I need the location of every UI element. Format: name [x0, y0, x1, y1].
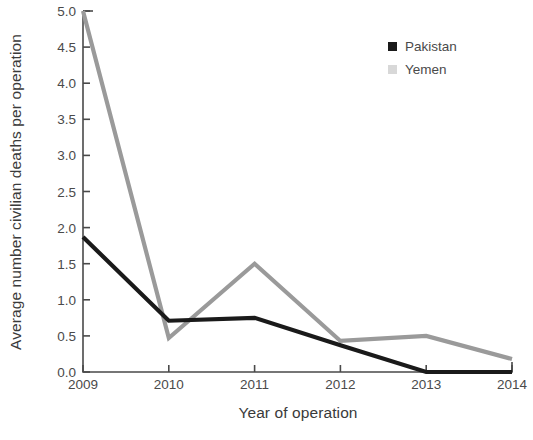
legend-swatch-icon	[388, 42, 397, 51]
chart-legend: PakistanYemen	[388, 38, 457, 77]
x-tick-label: 2012	[305, 377, 375, 392]
legend-item[interactable]: Yemen	[388, 61, 457, 77]
legend-label: Yemen	[405, 62, 447, 77]
x-axis-title: Year of operation	[83, 404, 513, 422]
x-tick-label: 2009	[48, 377, 118, 392]
chart-figure: Average number civilian deaths per opera…	[0, 0, 533, 440]
x-tick-label: 2010	[134, 377, 204, 392]
x-tick-label: 2011	[220, 377, 290, 392]
x-tick-label: 2014	[477, 377, 533, 392]
legend-item[interactable]: Pakistan	[388, 38, 457, 54]
legend-swatch-icon	[388, 65, 397, 74]
legend-label: Pakistan	[405, 39, 457, 54]
x-tick-label: 2013	[391, 377, 461, 392]
